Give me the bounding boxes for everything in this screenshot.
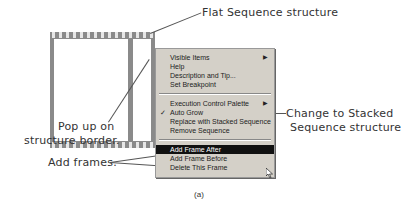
menu-item-label: Execution Control Palette [170, 100, 249, 107]
sequence-frame-2[interactable] [133, 39, 151, 141]
menu-item-label: Remove Sequence [170, 127, 230, 134]
annotation-popup-2: structure border. [24, 134, 120, 147]
menu-separator [159, 139, 271, 141]
menu-item-set-breakpoint[interactable]: Set Breakpoint [156, 80, 274, 89]
menu-item-auto-grow[interactable]: ✓Auto Grow [156, 108, 274, 117]
menu-item-help[interactable]: Help [156, 62, 274, 71]
annotation-add-frames: Add frames. [48, 156, 117, 169]
menu-item-execution-control[interactable]: Execution Control Palette▶ [156, 99, 274, 108]
submenu-arrow-icon: ▶ [263, 99, 268, 108]
figure-caption: (a) [0, 190, 398, 199]
menu-item-description[interactable]: Description and Tip... [156, 71, 274, 80]
menu-item-label: Auto Grow [170, 109, 203, 116]
submenu-arrow-icon: ▶ [263, 53, 268, 62]
menu-item-label: Add Frame Before [170, 155, 227, 162]
menu-item-label: Set Breakpoint [170, 81, 216, 88]
menu-item-label: Add Frame After [170, 146, 221, 153]
context-menu: Visible Items▶ Help Description and Tip.… [155, 48, 275, 178]
menu-item-label: Visible Items [170, 54, 210, 61]
annotation-change-2: Sequence structure [290, 121, 401, 134]
menu-item-add-frame-before[interactable]: Add Frame Before [156, 154, 274, 163]
annotation-popup-1: Pop up on [58, 120, 114, 133]
menu-separator [159, 93, 271, 95]
callout-line-add-2 [110, 162, 158, 166]
menu-item-label: Help [170, 63, 184, 70]
menu-item-label: Replace with Stacked Sequence [170, 118, 271, 125]
menu-item-label: Delete This Frame [170, 164, 227, 171]
structure-border-top[interactable] [50, 32, 155, 38]
callout-line-flat [150, 12, 201, 34]
menu-item-label: Description and Tip... [170, 72, 236, 79]
checkmark-icon: ✓ [160, 108, 166, 117]
annotation-flat-sequence: Flat Sequence structure [202, 6, 338, 19]
menu-item-visible-items[interactable]: Visible Items▶ [156, 53, 274, 62]
menu-item-replace-stacked[interactable]: Replace with Stacked Sequence [156, 117, 274, 126]
mouse-cursor-icon [266, 168, 274, 178]
menu-item-remove-sequence[interactable]: Remove Sequence [156, 126, 274, 135]
menu-item-delete-frame[interactable]: Delete This Frame [156, 163, 274, 172]
menu-item-add-frame-after[interactable]: Add Frame After [156, 145, 274, 154]
annotation-change-1: Change to Stacked [286, 107, 393, 120]
